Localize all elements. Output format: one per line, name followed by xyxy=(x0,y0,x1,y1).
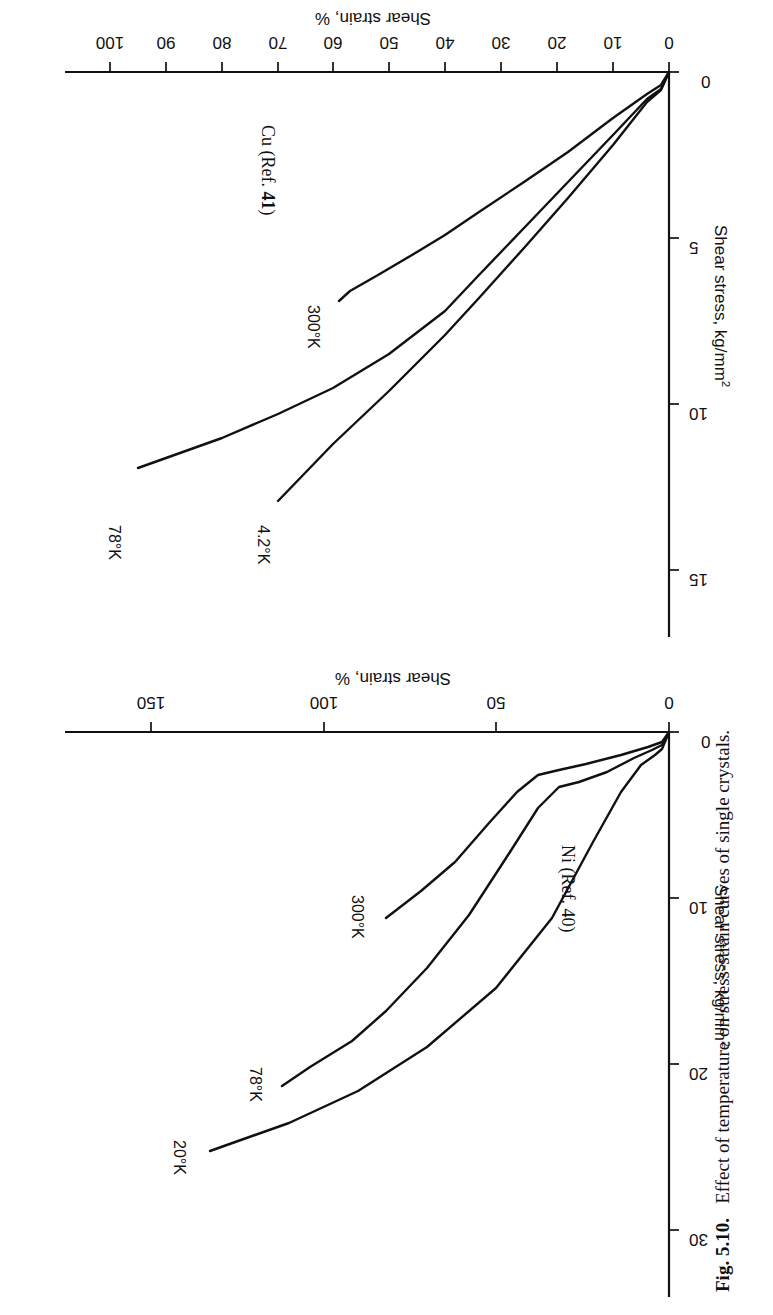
cu-axes-frame xyxy=(65,72,669,637)
ni-panel-label: Ni (Ref. 40) xyxy=(559,845,577,932)
cu-curve-label-78K: 78°K xyxy=(106,525,122,560)
cu-yaxis-title: Shear stress, kg/mm xyxy=(711,225,730,381)
cu-y-ticks xyxy=(669,72,679,570)
cu-ytick-0: 0 xyxy=(701,73,710,90)
cu-xtick-90: 90 xyxy=(157,34,176,51)
ni-xtick-150: 150 xyxy=(137,694,165,711)
ni-y-ticks xyxy=(669,732,679,1230)
ni-ytick-20: 20 xyxy=(689,1065,708,1082)
figure-body: 0 10 20 30 0 50 100 150 Shear strain, % … xyxy=(0,0,773,1315)
ni-ytick-0: 0 xyxy=(701,733,710,750)
ni-ytick-30: 30 xyxy=(689,1231,708,1248)
ni-xtick-0: 0 xyxy=(664,694,673,711)
ni-ytick-10: 10 xyxy=(689,899,708,916)
cu-panel-label-text: Cu (Ref. xyxy=(258,125,278,192)
figure-page: 0 10 20 30 0 50 100 150 Shear strain, % … xyxy=(0,0,773,1315)
ni-curve-label-20K: 20°K xyxy=(171,1140,187,1175)
cu-curve-78K xyxy=(138,72,669,468)
cu-curve-label-300K: 300°K xyxy=(305,305,321,349)
figure-number: Fig. 5.10. xyxy=(712,1218,733,1292)
cu-xtick-60: 60 xyxy=(324,34,343,51)
ni-xtick-50: 50 xyxy=(487,694,506,711)
cu-xtick-50: 50 xyxy=(380,34,399,51)
cu-panel-label: Cu (Ref. 41) xyxy=(259,125,277,216)
ni-curve-20K xyxy=(210,732,669,1151)
ni-curve-label-78K: 78°K xyxy=(247,1067,263,1102)
cu-xtick-80: 80 xyxy=(213,34,232,51)
cu-curve-label-4.2K: 4.2°K xyxy=(255,525,271,564)
cu-panel-label-close: ) xyxy=(258,210,278,216)
cu-yaxis-title-sup: 2 xyxy=(720,381,732,387)
ni-x-ticks xyxy=(151,722,669,732)
cu-ytick-15: 15 xyxy=(689,571,708,588)
cu-xtick-70: 70 xyxy=(269,34,288,51)
cu-xtick-100: 100 xyxy=(96,34,124,51)
ni-curve-label-300K: 300°K xyxy=(349,895,365,939)
ni-curve-78K xyxy=(282,732,669,1086)
cu-panel-label-ref: 41 xyxy=(258,192,278,210)
cu-ytick-5: 5 xyxy=(689,239,698,256)
figure-caption: Fig. 5.10. Effect of temperature on stre… xyxy=(712,730,734,1292)
ni-xtick-100: 100 xyxy=(310,694,338,711)
cu-ytick-10: 10 xyxy=(689,405,708,422)
ni-chart-plot xyxy=(0,675,773,1315)
figure-caption-text: Effect of temperature on stress-strain c… xyxy=(712,730,733,1204)
ni-xaxis-title: Shear strain, % xyxy=(335,670,451,687)
cu-xtick-30: 30 xyxy=(492,34,511,51)
cu-xtick-20: 20 xyxy=(548,34,567,51)
cu-curve-300K xyxy=(339,72,669,301)
cu-xtick-40: 40 xyxy=(436,34,455,51)
cu-x-ticks xyxy=(110,62,669,72)
ni-axes-frame xyxy=(65,732,669,1297)
cu-xtick-0: 0 xyxy=(664,34,673,51)
cu-xaxis-title: Shear strain, % xyxy=(315,10,431,27)
cu-xtick-10: 10 xyxy=(604,34,623,51)
